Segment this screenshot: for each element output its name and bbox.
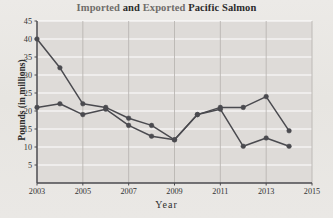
x-tick-label: 2011 — [212, 187, 228, 196]
y-tick-label: 15 — [24, 125, 32, 134]
x-tick-label: 2013 — [258, 187, 274, 196]
data-point-imported-2005 — [81, 102, 86, 107]
y-tick-label: 20 — [24, 107, 32, 116]
data-point-exported-2013 — [264, 136, 269, 141]
x-tick-label: 2007 — [120, 187, 136, 196]
data-point-exported-2011 — [218, 107, 223, 112]
x-axis-ticks: 2003200520072009201120132015 — [29, 183, 320, 196]
plot-area: 51015202530354045 2003200520072009201120… — [0, 0, 333, 218]
y-tick-label: 5 — [28, 161, 32, 170]
y-tick-label: 10 — [24, 143, 32, 152]
x-tick-label: 2009 — [166, 187, 182, 196]
data-point-exported-2009 — [172, 138, 177, 143]
data-point-imported-2004 — [58, 66, 63, 71]
data-point-imported-2007 — [126, 116, 131, 121]
x-tick-label: 2015 — [304, 187, 320, 196]
data-point-imported-2012 — [241, 105, 246, 110]
data-point-imported-2014 — [287, 129, 292, 134]
data-point-imported-2008 — [149, 123, 154, 128]
y-tick-label: 45 — [24, 17, 32, 26]
data-point-exported-2014 — [287, 144, 292, 149]
x-tick-label: 2005 — [75, 187, 91, 196]
data-point-exported-2005 — [81, 112, 86, 117]
salmon-line-chart: Imported and Exported Pacific Salmon Pou… — [0, 0, 333, 218]
data-point-exported-2012 — [241, 144, 246, 149]
data-point-exported-2008 — [149, 134, 154, 139]
data-point-exported-2004 — [58, 102, 63, 107]
data-point-exported-2010 — [195, 112, 200, 117]
y-tick-label: 25 — [24, 89, 32, 98]
y-tick-label: 30 — [24, 71, 32, 80]
y-tick-label: 35 — [24, 53, 32, 62]
data-point-exported-2003 — [35, 105, 40, 110]
data-point-exported-2006 — [103, 107, 108, 112]
data-point-imported-2013 — [264, 94, 269, 99]
data-point-exported-2007 — [126, 123, 131, 128]
data-point-imported-2003 — [35, 37, 40, 42]
x-tick-label: 2003 — [29, 187, 45, 196]
y-tick-label: 40 — [24, 35, 32, 44]
x-axis-title: Year — [0, 199, 333, 210]
